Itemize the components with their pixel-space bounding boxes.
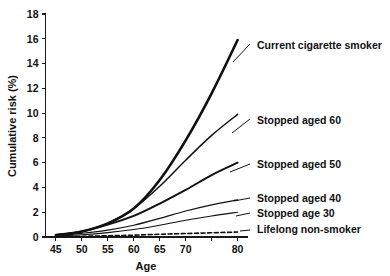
- series-label: Stopped aged 50: [257, 158, 341, 170]
- y-axis-title: Cumulative risk (%): [6, 75, 18, 177]
- series-label: Current cigarette smoker: [257, 39, 382, 51]
- series-label: Lifelong non-smoker: [257, 223, 361, 235]
- x-axis-tick-label: 80: [232, 243, 244, 255]
- y-axis-tick-label: 6: [33, 156, 39, 168]
- y-axis-tick-label: 16: [27, 33, 39, 45]
- x-axis-tick-label: 50: [76, 243, 88, 255]
- x-axis-tick-label: 65: [154, 243, 166, 255]
- x-axis-tick-label: 70: [180, 243, 192, 255]
- x-axis-tick-label: 60: [128, 243, 140, 255]
- y-axis-tick-label: 12: [27, 82, 39, 94]
- lung-cancer-cumulative-risk-chart: 024681012141618 45505560657080 Current c…: [0, 0, 390, 276]
- series-label: Stopped aged 60: [257, 114, 341, 126]
- series-label: Stopped aged 40: [257, 192, 341, 204]
- y-axis-tick-label: 10: [27, 107, 39, 119]
- y-axis-tick-label: 4: [33, 181, 39, 193]
- y-axis-tick-label: 8: [33, 132, 39, 144]
- x-axis-tick-label: 55: [102, 243, 114, 255]
- y-axis-tick-label: 0: [33, 231, 39, 243]
- x-axis-tick-label: 45: [50, 243, 62, 255]
- y-axis-tick-label: 14: [27, 57, 39, 69]
- series-label: Stopped age 30: [257, 207, 335, 219]
- y-axis-tick-label: 2: [33, 206, 39, 218]
- y-axis-tick-label: 18: [27, 8, 39, 20]
- chart-canvas: 024681012141618 45505560657080 Current c…: [0, 0, 390, 276]
- x-axis-title: Age: [136, 260, 157, 272]
